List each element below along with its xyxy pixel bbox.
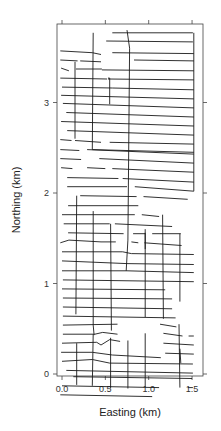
survey-line-segment <box>62 87 194 90</box>
survey-line-segment <box>67 131 194 136</box>
survey-line-segment <box>66 113 194 118</box>
survey-line-segment <box>110 142 194 144</box>
survey-line-segment <box>60 150 79 151</box>
survey-line-segment <box>63 280 194 282</box>
survey-line-segment <box>87 168 105 169</box>
survey-line-segment <box>61 68 69 71</box>
survey-line-segment <box>62 271 194 273</box>
survey-line-segment <box>180 349 181 363</box>
survey-line-segment <box>60 78 107 79</box>
y-axis-title: Northing (km) <box>10 167 22 234</box>
survey-line-segment <box>163 343 193 345</box>
survey-line-segment <box>62 360 193 365</box>
x-axis-title: Easting (km) <box>99 406 161 418</box>
survey-line-segment <box>62 340 120 345</box>
x-tick-label: 0.5 <box>99 384 112 394</box>
survey-line-segment <box>63 332 118 334</box>
survey-line-segment <box>60 51 101 55</box>
survey-line-segment <box>63 324 118 325</box>
survey-line-segment <box>76 196 77 315</box>
survey-line-segment <box>144 197 188 200</box>
survey-line-segment <box>62 261 194 265</box>
plot-frame <box>57 24 203 376</box>
survey-line-segment <box>60 159 81 160</box>
y-tick-label: 2 <box>44 188 49 198</box>
survey-line-segment <box>62 252 194 255</box>
survey-line-segment <box>99 159 194 164</box>
survey-line-segment <box>160 324 176 327</box>
survey-line-segment <box>75 141 101 143</box>
survey-line-map: 0.00.51.01.50123 Easting (km) Northing (… <box>0 0 221 431</box>
survey-line-segment <box>108 78 110 104</box>
survey-line-segment <box>112 169 194 173</box>
y-tick-label: 0 <box>44 369 49 379</box>
survey-line-segment <box>134 60 194 61</box>
survey-line-segment <box>60 60 77 61</box>
survey-line-segment <box>63 103 194 108</box>
survey-line-segment <box>106 41 193 42</box>
survey-line-segment <box>67 178 118 179</box>
survey-line-segment <box>92 33 93 150</box>
survey-line-segment <box>112 53 194 54</box>
survey-line-segment <box>142 215 159 217</box>
survey-line-segment <box>123 179 194 183</box>
axis-ticks: 0.00.51.01.50123 <box>44 20 207 394</box>
survey-line-segment <box>163 333 182 336</box>
survey-line-segment <box>80 61 101 62</box>
survey-line-segment <box>73 377 192 379</box>
survey-line-segment <box>108 79 194 80</box>
survey-line-segment <box>61 95 194 99</box>
survey-line-segment <box>61 168 72 169</box>
survey-line-segment <box>102 70 194 71</box>
survey-line-segment <box>60 395 152 397</box>
survey-line-segment <box>60 240 116 243</box>
survey-line-segment <box>62 289 165 290</box>
survey-line-segment <box>63 307 172 309</box>
survey-line-segment <box>61 122 194 127</box>
survey-line-segment <box>63 298 172 299</box>
survey-line-segment <box>135 187 194 192</box>
survey-line-segment <box>92 334 93 386</box>
survey-line-segment <box>66 370 193 373</box>
survey-line-segment <box>115 224 172 227</box>
y-tick-label: 1 <box>44 279 49 289</box>
survey-line-segment <box>111 224 112 331</box>
x-tick-label: 1.5 <box>186 384 199 394</box>
survey-line-segment <box>131 242 138 243</box>
survey-line-segment <box>60 140 71 141</box>
survey-line-segment <box>63 316 176 318</box>
x-tick-label: 1.0 <box>142 384 155 394</box>
y-tick-label: 3 <box>44 98 49 108</box>
survey-lines <box>60 30 194 397</box>
survey-line-segment <box>163 215 164 319</box>
